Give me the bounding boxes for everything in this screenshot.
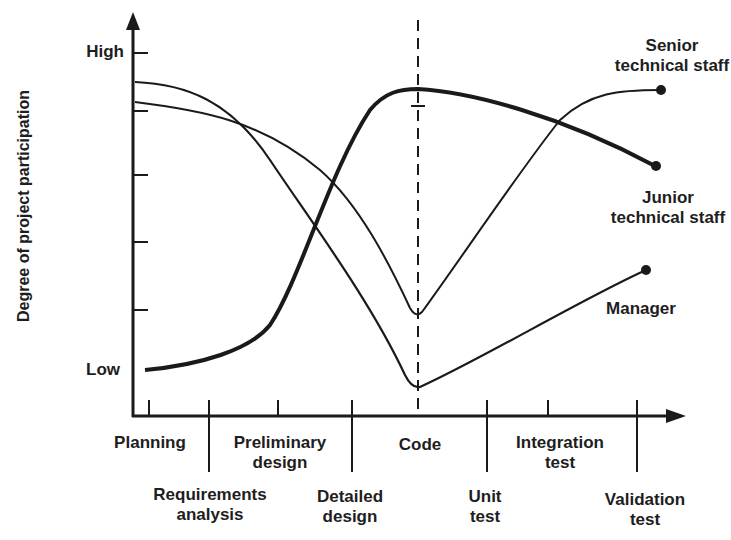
phase-validation-line1: Validation bbox=[590, 490, 700, 510]
phase-detailed-line2: design bbox=[300, 507, 400, 527]
phase-requirements: Requirements analysis bbox=[140, 485, 280, 525]
legend-junior: Junior technical staff bbox=[605, 188, 731, 228]
legend-senior-line2: technical staff bbox=[612, 56, 731, 76]
legend-senior-line1: Senior bbox=[612, 36, 731, 56]
y-tick-high: High bbox=[80, 42, 124, 62]
phase-planning: Planning bbox=[100, 433, 200, 453]
legend-senior: Senior technical staff bbox=[612, 36, 731, 76]
participation-chart bbox=[0, 0, 731, 540]
phase-detailed: Detailed design bbox=[300, 487, 400, 527]
junior-end-dot-icon bbox=[651, 161, 661, 171]
manager-end-dot-icon bbox=[641, 265, 651, 275]
phase-unit-line1: Unit bbox=[455, 487, 515, 507]
legend-junior-line1: Junior bbox=[605, 188, 731, 208]
x-axis-arrow-icon bbox=[666, 409, 686, 423]
phase-preliminary: Preliminary design bbox=[220, 433, 340, 473]
phase-unit: Unit test bbox=[455, 487, 515, 527]
y-axis-arrow-icon bbox=[126, 12, 140, 30]
phase-requirements-line2: analysis bbox=[140, 505, 280, 525]
senior-end-dot-icon bbox=[656, 85, 666, 95]
legend-manager: Manager bbox=[596, 299, 686, 319]
series-senior-line bbox=[135, 90, 660, 314]
phase-requirements-line1: Requirements bbox=[140, 485, 280, 505]
series-junior-line bbox=[145, 89, 655, 370]
phase-unit-line2: test bbox=[455, 507, 515, 527]
phase-preliminary-line2: design bbox=[220, 453, 340, 473]
y-axis-label: Degree of project participation bbox=[15, 71, 33, 341]
legend-junior-line2: technical staff bbox=[605, 208, 731, 228]
phase-integration: Integration test bbox=[500, 433, 620, 473]
phase-integration-line1: Integration bbox=[500, 433, 620, 453]
phase-preliminary-line1: Preliminary bbox=[220, 433, 340, 453]
phase-detailed-line1: Detailed bbox=[300, 487, 400, 507]
phase-code: Code bbox=[385, 435, 455, 455]
phase-validation-line2: test bbox=[590, 510, 700, 530]
phase-validation: Validation test bbox=[590, 490, 700, 530]
y-tick-low: Low bbox=[76, 360, 120, 380]
phase-integration-line2: test bbox=[500, 453, 620, 473]
y-ticks bbox=[133, 53, 148, 310]
